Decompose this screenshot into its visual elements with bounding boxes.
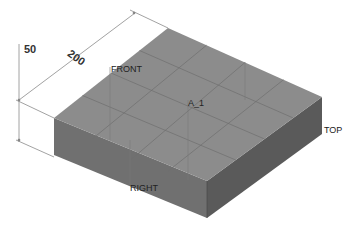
height-dimension <box>16 44 54 157</box>
top-plane-label: TOP <box>324 126 342 135</box>
cad-viewport: 50 200 FRONT A_1 TOP RIGHT <box>0 0 352 233</box>
height-dimension-value: 50 <box>24 44 36 55</box>
front-plane-label: FRONT <box>111 65 142 74</box>
isometric-box-drawing <box>0 0 352 233</box>
right-plane-label: RIGHT <box>130 184 158 193</box>
annotation-label: A_1 <box>188 99 204 108</box>
